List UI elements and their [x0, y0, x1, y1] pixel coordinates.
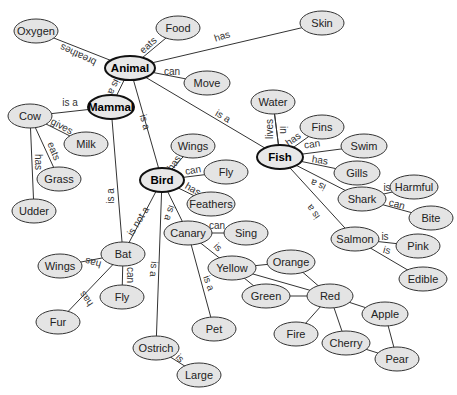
node-pear[interactable]: Pear: [375, 347, 419, 371]
node-salmon[interactable]: Salmon: [331, 227, 379, 251]
edge-label: eats: [45, 140, 62, 162]
node-label: Bat: [115, 248, 132, 260]
node-mammal[interactable]: Mammal: [88, 95, 134, 119]
node-green[interactable]: Green: [242, 284, 290, 308]
node-label: Pear: [385, 353, 409, 365]
node-label: Udder: [19, 205, 49, 217]
node-canary[interactable]: Canary: [164, 221, 212, 245]
nodes-layer: AnimalMammalBirdFishOxygenFoodSkinMoveCo…: [8, 11, 453, 387]
node-cow[interactable]: Cow: [8, 104, 52, 128]
node-label: Shark: [348, 193, 377, 205]
node-label: Fish: [268, 151, 292, 163]
node-pink[interactable]: Pink: [396, 234, 440, 258]
node-label: Bird: [151, 174, 174, 186]
node-label: Grass: [44, 173, 74, 185]
node-fish[interactable]: Fish: [257, 145, 303, 169]
node-edible[interactable]: Edible: [399, 267, 447, 291]
node-label: Apple: [371, 308, 399, 320]
node-fly-bird[interactable]: Fly: [204, 160, 248, 184]
node-feathers[interactable]: Feathers: [187, 192, 235, 216]
edge-label: can: [388, 197, 406, 212]
node-label: Swim: [351, 140, 378, 152]
node-red[interactable]: Red: [307, 284, 353, 308]
edge-label: is a: [214, 107, 233, 125]
edge-label: can: [164, 66, 180, 77]
edge-mammal-bat: is a: [105, 107, 124, 254]
node-udder[interactable]: Udder: [12, 199, 56, 223]
node-label: Ostrich: [139, 342, 174, 354]
edge-label: in: [278, 126, 289, 134]
edge-label: is a: [106, 78, 123, 97]
node-label: Milk: [76, 138, 96, 150]
node-label: Skin: [311, 17, 332, 29]
node-animal[interactable]: Animal: [105, 56, 155, 80]
node-fur[interactable]: Fur: [36, 310, 80, 334]
node-harmful[interactable]: Harmful: [390, 175, 438, 199]
node-shark[interactable]: Shark: [338, 187, 386, 211]
node-move[interactable]: Move: [184, 71, 230, 95]
node-label: Salmon: [336, 233, 373, 245]
edge-label: can: [303, 137, 320, 150]
node-skin[interactable]: Skin: [300, 11, 344, 35]
edge-label: has: [84, 256, 102, 271]
node-label: Animal: [111, 62, 149, 74]
node-sing[interactable]: Sing: [224, 221, 268, 245]
node-milk[interactable]: Milk: [64, 132, 108, 156]
node-fins[interactable]: Fins: [300, 115, 344, 139]
node-yellow[interactable]: Yellow: [208, 256, 256, 280]
node-label: Red: [320, 290, 340, 302]
node-label: Cow: [19, 110, 41, 122]
node-grass[interactable]: Grass: [37, 167, 81, 191]
node-swim[interactable]: Swim: [341, 134, 387, 158]
node-label: Harmful: [395, 181, 434, 193]
node-label: Water: [259, 96, 288, 108]
node-cherry[interactable]: Cherry: [322, 331, 370, 355]
node-water[interactable]: Water: [251, 90, 295, 114]
node-orange[interactable]: Orange: [267, 250, 315, 274]
node-label: Move: [194, 77, 221, 89]
node-pet[interactable]: Pet: [192, 317, 236, 341]
node-label: Fire: [287, 328, 306, 340]
edge-label: is a: [105, 188, 116, 204]
node-label: Fins: [312, 121, 333, 133]
edge-label: eats: [137, 35, 158, 56]
node-fire[interactable]: Fire: [274, 322, 318, 346]
node-label: Oxygen: [17, 25, 55, 37]
node-ostrich[interactable]: Ostrich: [133, 336, 179, 360]
node-fly-bat[interactable]: Fly: [100, 285, 144, 309]
edge-animal-bird: is a: [130, 68, 162, 180]
node-bat[interactable]: Bat: [101, 242, 145, 266]
node-wings-bird[interactable]: Wings: [171, 134, 215, 158]
node-label: Fur: [50, 316, 67, 328]
edge-label: has: [213, 28, 232, 43]
node-label: Orange: [273, 256, 310, 268]
node-label: Pink: [407, 240, 429, 252]
node-food[interactable]: Food: [156, 16, 200, 40]
node-label: Green: [251, 290, 282, 302]
node-label: Pet: [206, 323, 223, 335]
edge-label: can: [184, 163, 202, 177]
edge-label: is not a: [125, 204, 152, 238]
edge-label: has: [77, 289, 95, 309]
node-label: Food: [165, 22, 190, 34]
node-label: Feathers: [189, 198, 233, 210]
node-wings-bat[interactable]: Wings: [38, 254, 82, 278]
node-label: Gills: [346, 167, 368, 179]
edge-bird-ostrich: is a: [148, 180, 162, 348]
edge-label: has: [311, 153, 328, 166]
edge-label: is a: [304, 202, 322, 221]
node-label: Bite: [422, 212, 441, 224]
concept-map-canvas: breatheseatshascanis ais ais ais ais agi…: [0, 0, 457, 395]
node-label: Mammal: [88, 101, 134, 113]
node-gills[interactable]: Gills: [334, 161, 380, 185]
node-oxygen[interactable]: Oxygen: [14, 19, 58, 43]
node-bite[interactable]: Bite: [409, 206, 453, 230]
node-apple[interactable]: Apple: [362, 302, 408, 326]
node-large[interactable]: Large: [177, 363, 221, 387]
edge-label: is a: [138, 113, 153, 131]
node-bird[interactable]: Bird: [140, 168, 184, 192]
node-label: Fly: [219, 166, 234, 178]
edge-label: is: [212, 241, 225, 254]
edge-label: lives: [264, 119, 275, 139]
node-label: Fly: [115, 291, 130, 303]
